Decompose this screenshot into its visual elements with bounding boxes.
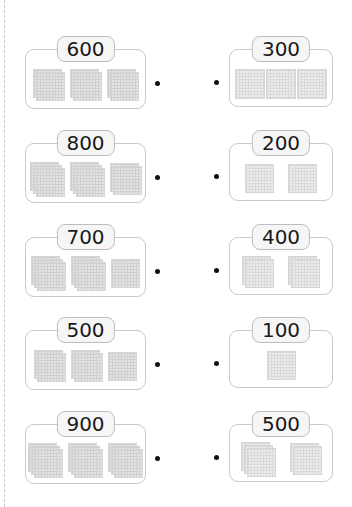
hundred-flat: [245, 164, 274, 193]
hundred-flat: [34, 449, 63, 478]
hundred-flat: [36, 72, 65, 101]
base-ten-blocks: [230, 68, 332, 100]
number-label: 800: [56, 130, 114, 156]
hundred-block-stack: [30, 162, 65, 197]
left-card-3: 700: [25, 237, 146, 297]
hundred-flat: [114, 449, 143, 478]
hundred-block-stack: [245, 164, 274, 193]
left-match-dot-1[interactable]: [155, 81, 160, 86]
hundred-flat: [113, 166, 142, 195]
hundred-flat: [293, 446, 322, 475]
number-label: 700: [56, 224, 114, 250]
hundred-block-stack: [242, 256, 274, 288]
left-match-dot-5[interactable]: [155, 456, 160, 461]
hundred-block-stack: [28, 443, 63, 478]
hundred-block-stack: [70, 69, 102, 101]
hundred-flat: [77, 262, 106, 291]
number-label: 500: [56, 317, 114, 343]
hundred-block-stack: [241, 442, 276, 477]
number-label: 100: [252, 317, 310, 343]
hundred-flat: [245, 259, 274, 288]
hundred-block-stack: [111, 259, 140, 288]
hundred-flat: [288, 164, 317, 193]
number-label: 900: [56, 411, 114, 437]
left-card-2: 800: [25, 143, 146, 203]
right-card-1: 300: [229, 49, 333, 107]
hundred-flat: [247, 448, 276, 477]
right-match-dot-2[interactable]: [214, 174, 219, 179]
base-ten-blocks: [26, 349, 145, 383]
base-ten-blocks: [230, 162, 332, 194]
hundred-block-stack: [70, 162, 105, 197]
hundred-flat: [76, 168, 105, 197]
right-card-5: 500: [229, 424, 333, 482]
hundred-block-stack: [267, 351, 296, 380]
right-match-dot-3[interactable]: [214, 268, 219, 273]
right-card-3: 400: [229, 237, 333, 295]
cut-line-divider: [4, 0, 5, 507]
hundred-block-stack: [107, 69, 139, 101]
hundred-flat: [108, 352, 137, 381]
hundred-block-stack: [288, 256, 320, 288]
hundred-flat: [74, 449, 103, 478]
left-card-1: 600: [25, 49, 146, 109]
hundred-flat: [37, 262, 66, 291]
number-label: 500: [252, 411, 310, 437]
hundred-flat: [36, 168, 65, 197]
hundred-block-stack: [108, 352, 137, 381]
hundred-flat: [297, 69, 327, 99]
hundred-flat: [267, 351, 296, 380]
number-label: 600: [56, 36, 114, 62]
hundred-block-stack: [71, 256, 106, 291]
hundred-block-stack: [71, 350, 103, 382]
base-ten-blocks: [26, 162, 145, 196]
left-match-dot-4[interactable]: [155, 362, 160, 367]
hundred-block-stack: [68, 443, 103, 478]
hundred-flat: [266, 69, 296, 99]
base-ten-blocks: [26, 443, 145, 477]
right-card-4: 100: [229, 330, 333, 388]
base-ten-blocks: [230, 349, 332, 381]
hundred-flat: [73, 72, 102, 101]
hundred-block-stack: [34, 350, 66, 382]
base-ten-blocks: [230, 443, 332, 475]
hundred-flat: [235, 69, 265, 99]
hundred-block-stack: [31, 256, 66, 291]
left-card-5: 900: [25, 424, 146, 484]
number-label: 200: [252, 130, 310, 156]
right-match-dot-4[interactable]: [214, 361, 219, 366]
hundred-flat: [111, 259, 140, 288]
hundred-flat: [37, 353, 66, 382]
base-ten-blocks: [26, 256, 145, 290]
hundred-block-stack: [290, 443, 322, 475]
right-match-dot-5[interactable]: [214, 455, 219, 460]
hundred-block-stack: [108, 443, 143, 478]
right-card-2: 200: [229, 143, 333, 201]
left-match-dot-2[interactable]: [155, 175, 160, 180]
base-ten-blocks: [26, 68, 145, 102]
base-ten-blocks: [230, 256, 332, 288]
hundred-flat: [291, 259, 320, 288]
hundred-block-stack: [110, 163, 142, 195]
number-label: 400: [252, 224, 310, 250]
hundred-block-stack: [288, 164, 317, 193]
hundred-flat: [110, 72, 139, 101]
right-match-dot-1[interactable]: [214, 80, 219, 85]
hundred-flat: [74, 353, 103, 382]
left-match-dot-3[interactable]: [155, 269, 160, 274]
left-card-4: 500: [25, 330, 146, 390]
hundred-block-stack: [33, 69, 65, 101]
joined-hundred-flats: [235, 69, 327, 99]
number-label: 300: [252, 36, 310, 62]
